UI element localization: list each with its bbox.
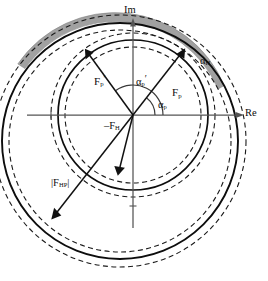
imaginary-axis-label: Im — [124, 5, 136, 16]
angle-arc-alpha-p — [147, 98, 156, 115]
label-alpha-H: αH — [200, 56, 210, 67]
real-axis-label: Re — [245, 108, 257, 119]
label-minus-FH: –FH — [104, 121, 120, 132]
label-abs-FHP: |FHP| — [51, 178, 69, 189]
outer-circle-dashed-inner — [9, 30, 231, 252]
shaded-arc-band — [18, 13, 224, 89]
label-Fp-prime: Fp′ — [94, 74, 106, 88]
label-alpha-p: αp — [158, 100, 167, 111]
label-alpha-p-prime: αp′ — [136, 75, 147, 88]
phasor-diagram-figure: Im Re αH Fp′ αp′ Fp αp –FH |FHP| — [0, 0, 268, 281]
real-axis-arrowhead — [236, 112, 244, 118]
label-Fp: Fp — [172, 87, 182, 99]
vector-Fp-prime — [85, 49, 133, 115]
diagram-canvas — [0, 0, 268, 281]
